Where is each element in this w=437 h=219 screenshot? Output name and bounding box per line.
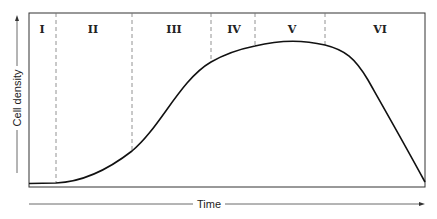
growth-curve bbox=[29, 41, 425, 183]
phase-label-II: II bbox=[88, 23, 98, 36]
phase-dividers bbox=[56, 13, 325, 183]
phase-label-V: V bbox=[287, 23, 297, 36]
growth-curve-diagram: I II III IV V VI Cell density Time bbox=[0, 0, 437, 219]
y-axis-arrowhead-icon bbox=[15, 15, 19, 21]
plot-frame bbox=[29, 13, 425, 187]
x-axis-label: Time bbox=[197, 198, 221, 210]
phase-label-III: III bbox=[166, 23, 181, 36]
phase-label-VI: VI bbox=[372, 23, 387, 36]
phase-label-IV: IV bbox=[227, 23, 241, 36]
phase-label-I: I bbox=[39, 23, 44, 36]
x-axis-arrowhead-icon bbox=[419, 202, 425, 206]
y-axis-label: Cell density bbox=[11, 69, 23, 126]
